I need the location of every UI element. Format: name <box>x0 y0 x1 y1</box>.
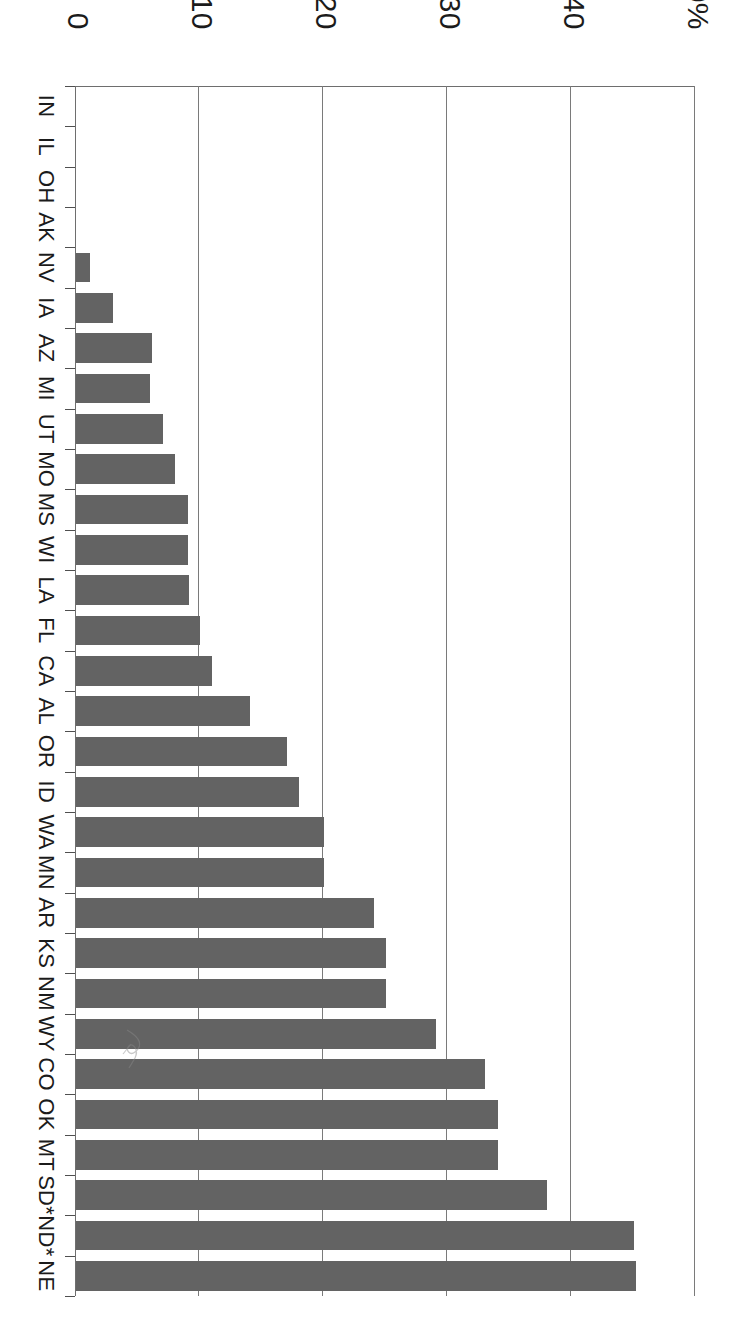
x-axis-tick-label: IA <box>33 288 59 328</box>
bar <box>76 616 200 646</box>
y-axis-tick-label: 0 <box>61 0 95 30</box>
x-axis-tick <box>65 852 75 853</box>
x-axis-tick <box>65 1175 75 1176</box>
plot-area: INILOHAKNVIAAZMIUTMOMSWILAFLCAALORIDWAMN… <box>75 86 695 1296</box>
bar <box>76 777 299 807</box>
x-axis-tick-label: MS <box>33 489 59 529</box>
x-axis-tick <box>65 489 75 490</box>
x-axis-tick <box>65 530 75 531</box>
bar <box>76 817 324 847</box>
bar <box>76 858 324 888</box>
chart-area: INILOHAKNVIAAZMIUTMOMSWILAFLCAALORIDWAMN… <box>0 0 735 1336</box>
x-axis-tick <box>65 973 75 974</box>
x-axis-tick <box>65 731 75 732</box>
x-axis-tick-label: OH <box>33 167 59 207</box>
y-axis-line <box>75 86 695 87</box>
x-axis-tick-label: OR <box>33 731 59 771</box>
x-axis-tick <box>65 86 75 87</box>
x-axis-tick-label: WY <box>33 1014 59 1054</box>
x-axis-tick-label: CA <box>33 651 59 691</box>
x-axis-tick <box>65 1215 75 1216</box>
x-axis-tick-label: CO <box>33 1054 59 1094</box>
x-axis-tick <box>65 772 75 773</box>
bar <box>76 979 386 1009</box>
x-axis-tick-label: NE <box>33 1256 59 1296</box>
x-axis-tick-label: AK <box>33 207 59 247</box>
x-axis-tick <box>65 812 75 813</box>
x-axis-tick <box>65 651 75 652</box>
x-axis-tick <box>65 570 75 571</box>
x-axis-tick <box>65 167 75 168</box>
x-axis-tick-label: KS <box>33 933 59 973</box>
x-axis-tick-label: WI <box>33 530 59 570</box>
x-axis-tick-label: MO <box>33 449 59 489</box>
y-axis-tick-label: 10 <box>185 0 219 30</box>
x-axis-tick <box>65 126 75 127</box>
y-axis-tick-label: 40 <box>557 0 591 30</box>
bar <box>76 374 150 404</box>
x-axis-tick-label: WA <box>33 812 59 852</box>
bar <box>76 333 152 363</box>
x-axis-tick-label: UT <box>33 409 59 449</box>
y-axis-tick-label: 50% <box>681 0 715 30</box>
x-axis-tick-label: AZ <box>33 328 59 368</box>
chart-figure: INILOHAKNVIAAZMIUTMOMSWILAFLCAALORIDWAMN… <box>0 0 735 1336</box>
bar <box>76 1261 636 1291</box>
x-axis-tick <box>65 449 75 450</box>
bar <box>76 1059 485 1089</box>
x-axis-tick-label: SD* <box>33 1175 59 1215</box>
bar <box>76 253 90 283</box>
x-axis-tick-label: ID <box>33 772 59 812</box>
x-axis-tick <box>65 207 75 208</box>
y-axis-tick-label: 30 <box>433 0 467 30</box>
x-axis-tick <box>65 1054 75 1055</box>
y-axis-tick-label: 20 <box>309 0 343 30</box>
x-axis-tick-label: OK <box>33 1094 59 1134</box>
x-axis-tick <box>65 893 75 894</box>
bar <box>76 737 287 767</box>
x-axis-tick-label: AL <box>33 691 59 731</box>
x-axis-tick <box>65 1296 75 1297</box>
x-axis-tick <box>65 691 75 692</box>
x-axis-tick-label: ND* <box>33 1215 59 1255</box>
x-axis-tick <box>65 610 75 611</box>
bar <box>76 1140 498 1170</box>
bar <box>76 938 386 968</box>
x-axis-tick-label: FL <box>33 610 59 650</box>
x-axis-tick <box>65 933 75 934</box>
x-axis-tick-label: NM <box>33 973 59 1013</box>
bar <box>76 454 175 484</box>
bar <box>76 1221 634 1251</box>
bar <box>76 414 163 444</box>
bar <box>76 1019 436 1049</box>
gridline <box>570 86 571 1296</box>
x-axis-tick <box>65 247 75 248</box>
x-axis-tick-label: AR <box>33 893 59 933</box>
bar <box>76 535 188 565</box>
x-axis-tick <box>65 288 75 289</box>
x-axis-tick-label: MT <box>33 1135 59 1175</box>
x-axis-tick <box>65 409 75 410</box>
bar <box>76 1180 547 1210</box>
x-axis-tick <box>65 368 75 369</box>
bar <box>76 1100 498 1130</box>
gridline <box>694 86 695 1296</box>
x-axis-tick-label: MI <box>33 368 59 408</box>
x-axis-tick-label: LA <box>33 570 59 610</box>
x-axis-tick-label: IL <box>33 126 59 166</box>
x-axis-tick <box>65 1135 75 1136</box>
bar <box>76 495 188 525</box>
x-axis-tick <box>65 1256 75 1257</box>
x-axis-tick <box>65 328 75 329</box>
bar <box>76 696 250 726</box>
bar <box>76 656 212 686</box>
bar <box>76 898 374 928</box>
x-axis-tick-label: IN <box>33 86 59 126</box>
bar <box>76 575 189 605</box>
x-axis-tick <box>65 1094 75 1095</box>
x-axis-tick <box>65 1014 75 1015</box>
bar <box>76 293 113 323</box>
x-axis-tick-label: NV <box>33 247 59 287</box>
x-axis-tick-label: MN <box>33 852 59 892</box>
